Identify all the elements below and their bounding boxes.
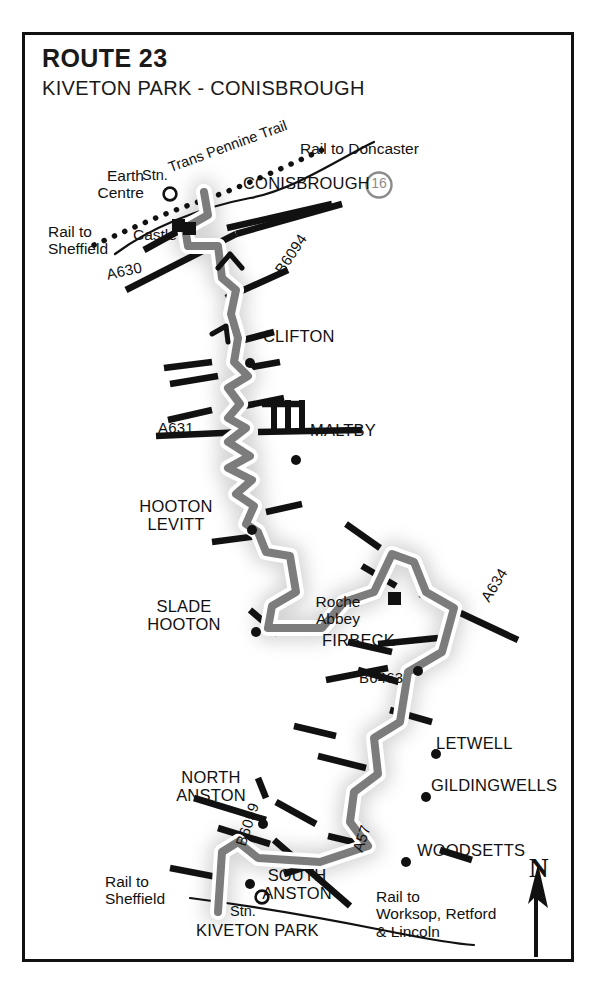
label-slade-hooton: SLADE HOOTON <box>138 597 230 634</box>
station-conisbrough <box>164 188 177 201</box>
dot-woodsetts <box>401 857 411 867</box>
route-number-badge-label: 16 <box>365 176 393 192</box>
label-station-kiveton-park: Stn. <box>230 903 256 919</box>
label-rail-to-sheffield-south: Rail to Sheffield <box>105 873 165 908</box>
label-road-b6463: B6463 <box>359 670 403 687</box>
label-gildingwells: GILDINGWELLS <box>431 776 557 794</box>
dot-north-anston <box>258 819 268 829</box>
label-roche-abbey: Roche Abbey <box>300 593 376 628</box>
label-letwell: LETWELL <box>436 734 513 752</box>
dot-clifton <box>245 358 255 368</box>
road-woodsetts-w <box>276 802 316 824</box>
road-mid1 <box>170 376 218 384</box>
map-page: ROUTE 23 KIVETON PARK - CONISBROUGH Tran… <box>0 0 592 996</box>
label-rail-to-sheffield-north: Rail to Sheffield <box>48 223 108 258</box>
north-arrow-label: N <box>529 853 549 883</box>
label-station-conisbrough: Stn. <box>142 167 168 183</box>
label-conisbrough: CONISBROUGH <box>243 174 370 192</box>
dot-gildingwells <box>421 792 431 802</box>
label-north-anston: NORTH ANSTON <box>159 768 263 805</box>
square-roche-abbey <box>388 592 401 605</box>
label-road-a631: A631 <box>158 420 194 437</box>
label-rail-to-doncaster: Rail to Doncaster <box>300 140 419 157</box>
route-direction-arrow-2 <box>212 326 228 342</box>
square-castle <box>183 222 196 235</box>
dot-hooton-levitt <box>247 525 257 535</box>
label-clifton: CLIFTON <box>263 327 335 345</box>
page-title: ROUTE 23 <box>42 45 365 71</box>
road-clifton-w <box>164 362 212 368</box>
page-subtitle: KIVETON PARK - CONISBROUGH <box>42 77 365 100</box>
dot-firbeck <box>413 666 423 676</box>
label-kiveton-park: KIVETON PARK <box>196 921 319 939</box>
road-roche-n <box>346 524 380 548</box>
label-rail-to-worksop: Rail to Worksop, Retford & Lincoln <box>376 888 496 940</box>
label-maltby: MALTBY <box>310 421 376 439</box>
label-earth-centre: Earth Centre <box>78 167 144 202</box>
label-castle: Castle <box>133 226 177 243</box>
road-gilding-w <box>294 726 336 736</box>
title-block: ROUTE 23 KIVETON PARK - CONISBROUGH <box>42 45 365 100</box>
label-south-anston: SOUTH ANSTON <box>249 866 345 903</box>
dot-slade-hooton <box>251 627 261 637</box>
label-woodsetts: WOODSETTS <box>417 841 525 859</box>
road-hooton-e <box>266 504 302 512</box>
road-gilding-e <box>318 756 366 768</box>
label-firbeck: FIRBECK <box>322 631 395 649</box>
label-hooton-levitt: HOOTON LEVITT <box>128 497 224 534</box>
dot-maltby <box>291 455 301 465</box>
